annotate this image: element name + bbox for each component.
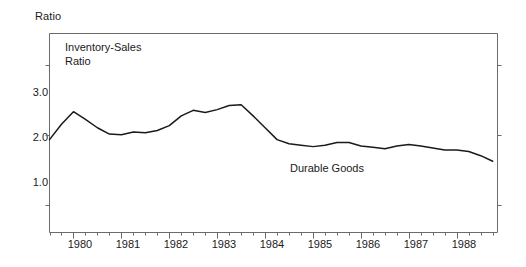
inventory-sales-ratio-chart: Ratio Inventory-Sales Ratio Durable Good… — [0, 0, 526, 267]
plot-frame — [50, 34, 498, 233]
plot-area — [0, 0, 526, 267]
x-tick-marks — [51, 233, 494, 239]
series-line-durable-goods — [50, 105, 493, 162]
frame-border — [50, 34, 498, 233]
